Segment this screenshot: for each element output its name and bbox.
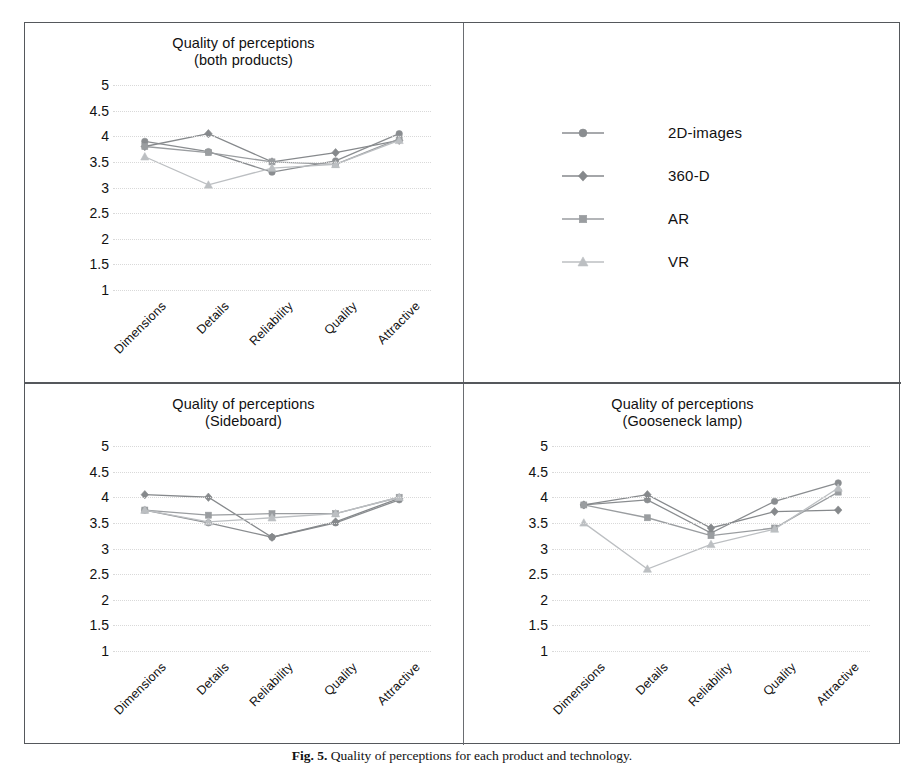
gridline xyxy=(113,651,431,652)
y-tick-label: 1 xyxy=(540,643,548,659)
circle-marker-icon xyxy=(560,123,634,143)
gridline xyxy=(113,497,431,498)
gridline xyxy=(552,574,870,575)
data-point-marker xyxy=(581,502,587,508)
y-tick-label: 3 xyxy=(101,180,109,196)
x-tick-label: Details xyxy=(633,660,671,698)
chart-title-both: Quality of perceptions (both products) xyxy=(25,35,462,69)
triangle-marker-icon xyxy=(560,252,634,272)
x-tick-label: Reliability xyxy=(686,660,735,709)
diamond-marker-icon xyxy=(560,166,634,186)
chart-panel-gooseneck: Quality of perceptions (Gooseneck lamp) … xyxy=(464,384,901,745)
data-point-marker xyxy=(644,515,650,521)
gridline xyxy=(113,162,431,163)
gridline xyxy=(113,213,431,214)
y-tick-label: 3 xyxy=(540,541,548,557)
chart-title-gooseneck-line2: (Gooseneck lamp) xyxy=(464,413,901,430)
legend-item-label: AR xyxy=(668,210,689,227)
x-axis-labels-both: DimensionsDetailsReliabilityQualityAttra… xyxy=(113,295,431,375)
figure-caption-text: Quality of perceptions for each product … xyxy=(331,748,632,763)
legend-item-label: 360-D xyxy=(668,167,710,184)
x-tick-label: Attractive xyxy=(375,299,423,347)
x-tick-label: Details xyxy=(194,660,232,698)
gridline xyxy=(113,523,431,524)
x-tick-label: Quality xyxy=(321,299,359,337)
plot-area-sideboard xyxy=(113,446,431,651)
data-point-marker xyxy=(771,507,778,515)
y-tick-label: 4.5 xyxy=(90,464,109,480)
gridline xyxy=(113,111,431,112)
gridline xyxy=(552,651,870,652)
data-point-marker xyxy=(268,533,275,541)
legend-panel: 2D-images360-DARVR xyxy=(464,23,901,382)
y-tick-label: 3.5 xyxy=(90,515,109,531)
gridline xyxy=(552,472,870,473)
gridline xyxy=(113,239,431,240)
y-tick-label: 3.5 xyxy=(529,515,548,531)
plot-area-both xyxy=(113,85,431,290)
legend-item-ar[interactable]: AR xyxy=(560,197,742,240)
y-axis-labels-both: 54.543.532.521.51 xyxy=(59,85,109,290)
gridline xyxy=(113,136,431,137)
data-point-marker xyxy=(141,153,149,160)
chart-panel-sideboard: Quality of perceptions (Sideboard) 54.54… xyxy=(25,384,462,745)
figure-caption: Fig. 5. Quality of perceptions for each … xyxy=(0,748,924,764)
y-tick-label: 3 xyxy=(101,541,109,557)
legend-item-label: VR xyxy=(668,253,689,270)
gridline xyxy=(113,188,431,189)
gridline xyxy=(113,625,431,626)
legend-item-vr[interactable]: VR xyxy=(560,240,742,283)
legend-item-2d-images[interactable]: 2D-images xyxy=(560,111,742,154)
chart-panel-both-products: Quality of perceptions (both products) 5… xyxy=(25,23,462,382)
square-marker-icon xyxy=(560,209,634,229)
y-tick-label: 2.5 xyxy=(90,205,109,221)
x-axis-labels-gooseneck: DimensionsDetailsReliabilityQualityAttra… xyxy=(552,656,870,736)
gridline xyxy=(113,472,431,473)
gridline xyxy=(552,446,870,447)
gridline xyxy=(552,549,870,550)
data-point-marker xyxy=(771,498,777,504)
y-tick-label: 5 xyxy=(101,77,109,93)
y-tick-label: 3.5 xyxy=(90,154,109,170)
y-axis-labels-sideboard: 54.543.532.521.51 xyxy=(59,446,109,651)
figure-container: Quality of perceptions (both products) 5… xyxy=(24,22,900,744)
legend-item-label: 2D-images xyxy=(668,124,742,141)
gridline xyxy=(113,574,431,575)
data-point-marker xyxy=(142,143,148,149)
y-tick-label: 4.5 xyxy=(529,464,548,480)
y-tick-label: 2 xyxy=(540,592,548,608)
y-tick-label: 4.5 xyxy=(90,103,109,119)
data-point-marker xyxy=(834,506,841,514)
y-tick-label: 4 xyxy=(101,489,109,505)
x-tick-label: Reliability xyxy=(247,660,296,709)
legend-item-360-d[interactable]: 360-D xyxy=(560,154,742,197)
gridline xyxy=(113,264,431,265)
gridline xyxy=(552,600,870,601)
y-tick-label: 1 xyxy=(101,282,109,298)
y-tick-label: 2 xyxy=(101,592,109,608)
x-tick-label: Attractive xyxy=(814,660,862,708)
gridline xyxy=(113,549,431,550)
x-tick-label: Dimensions xyxy=(111,660,168,717)
chart-title-sideboard-line2: (Sideboard) xyxy=(25,413,462,430)
chart-title-sideboard: Quality of perceptions (Sideboard) xyxy=(25,396,462,430)
chart-title-gooseneck-line1: Quality of perceptions xyxy=(611,396,753,412)
y-tick-label: 5 xyxy=(540,438,548,454)
x-axis-labels-sideboard: DimensionsDetailsReliabilityQualityAttra… xyxy=(113,656,431,736)
legend: 2D-images360-DARVR xyxy=(560,111,742,283)
chart-title-both-line2: (both products) xyxy=(25,52,462,69)
y-tick-label: 5 xyxy=(101,438,109,454)
x-tick-label: Reliability xyxy=(247,299,296,348)
y-tick-label: 1.5 xyxy=(90,256,109,272)
y-axis-labels-gooseneck: 54.543.532.521.51 xyxy=(498,446,548,651)
data-point-marker xyxy=(708,533,714,539)
gridline xyxy=(552,523,870,524)
chart-title-both-line1: Quality of perceptions xyxy=(172,35,314,51)
y-tick-label: 2 xyxy=(101,231,109,247)
x-tick-label: Quality xyxy=(321,660,359,698)
gridline xyxy=(113,290,431,291)
gridline xyxy=(113,446,431,447)
x-tick-label: Details xyxy=(194,299,232,337)
y-tick-label: 1.5 xyxy=(529,617,548,633)
y-tick-label: 2.5 xyxy=(90,566,109,582)
